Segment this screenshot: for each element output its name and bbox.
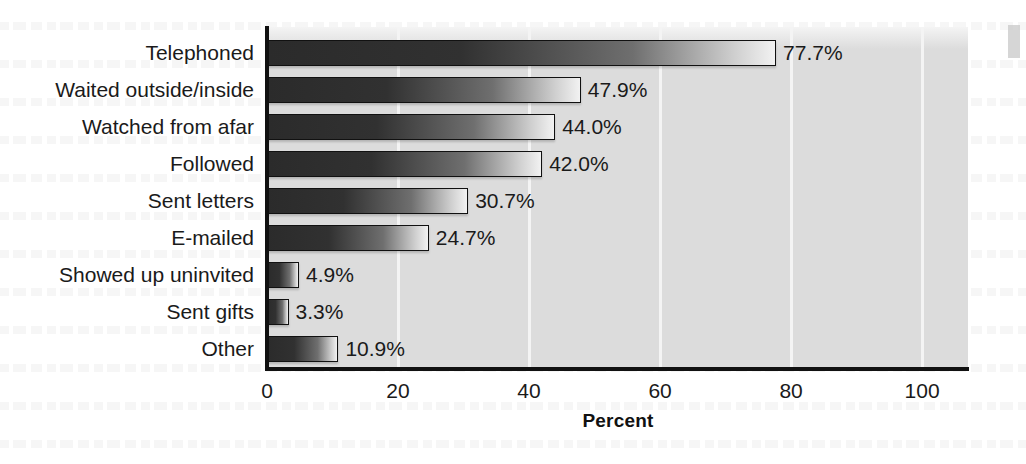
bar	[267, 40, 776, 66]
bar	[267, 225, 429, 251]
bar-row: 30.7%	[267, 183, 968, 220]
bar-value-label: 4.9%	[306, 261, 354, 288]
bar	[267, 77, 581, 103]
bar-value-label: 10.9%	[345, 335, 405, 362]
category-label: Telephoned	[0, 39, 254, 66]
bar-row: 44.0%	[267, 109, 968, 146]
bar-value-label: 3.3%	[296, 298, 344, 325]
x-axis-line	[265, 367, 969, 371]
bar-value-label: 77.7%	[783, 39, 843, 66]
plot-area: 77.7%47.9%44.0%42.0%30.7%24.7%4.9%3.3%10…	[267, 27, 968, 370]
bar-value-label: 44.0%	[562, 113, 622, 140]
category-label: E-mailed	[0, 224, 254, 251]
category-label: Followed	[0, 150, 254, 177]
bar	[267, 336, 338, 362]
x-tick-label: 0	[261, 377, 273, 404]
bar-value-label: 47.9%	[588, 76, 648, 103]
x-axis-title: Percent	[0, 410, 1026, 432]
x-tick-label: 100	[905, 377, 940, 404]
bar-row: 3.3%	[267, 294, 968, 331]
category-label: Sent letters	[0, 187, 254, 214]
category-label: Showed up uninvited	[0, 261, 254, 288]
bar-row: 42.0%	[267, 146, 968, 183]
bar	[267, 299, 289, 325]
bar-row: 10.9%	[267, 331, 968, 368]
bar-value-label: 30.7%	[475, 187, 535, 214]
bar-row: 77.7%	[267, 35, 968, 72]
horizontal-bar-chart: 77.7%47.9%44.0%42.0%30.7%24.7%4.9%3.3%10…	[0, 0, 1026, 464]
bar	[267, 262, 299, 288]
bar-value-label: 24.7%	[436, 224, 496, 251]
x-tick-label: 40	[517, 377, 540, 404]
category-label: Sent gifts	[0, 298, 254, 325]
x-tick-label: 20	[386, 377, 409, 404]
category-label: Watched from afar	[0, 113, 254, 140]
bar-row: 47.9%	[267, 72, 968, 109]
bar-row: 4.9%	[267, 257, 968, 294]
category-label: Waited outside/inside	[0, 76, 254, 103]
bar	[267, 188, 468, 214]
bar-row: 24.7%	[267, 220, 968, 257]
category-label: Other	[0, 335, 254, 362]
bar-value-label: 42.0%	[549, 150, 609, 177]
bar	[267, 151, 542, 177]
page-edge-artifact	[1008, 25, 1020, 58]
x-axis-title-text: Percent	[582, 410, 653, 431]
x-tick-label: 80	[779, 377, 802, 404]
bar	[267, 114, 555, 140]
y-axis-line	[265, 26, 269, 371]
x-tick-label: 60	[648, 377, 671, 404]
